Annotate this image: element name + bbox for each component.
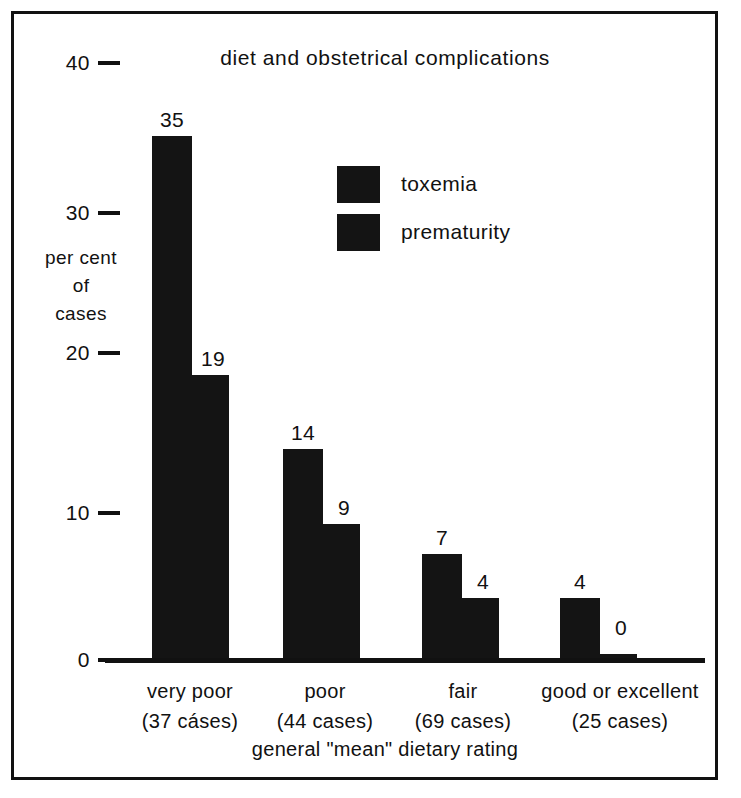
bar-value-toxemia-good-or-excellent: 4 [560, 570, 600, 594]
x-axis-category-count-fair: (69 cases) [388, 706, 538, 736]
bar-prematurity-fair [462, 598, 499, 658]
bar-prematurity-poor [323, 524, 360, 658]
bar-value-toxemia-poor: 14 [283, 421, 323, 445]
y-axis-tick-label-0: 0 [78, 648, 90, 672]
x-axis-category-label-very-poor: very poor [115, 676, 265, 706]
x-axis-category-very-poor: very poor (37 cáses) [115, 676, 265, 736]
x-axis-category-count-poor: (44 cases) [250, 706, 400, 736]
bar-value-toxemia-fair: 7 [422, 526, 462, 550]
bar-value-toxemia-very-poor: 35 [152, 108, 192, 132]
bar-toxemia-very-poor [152, 136, 192, 658]
bar-value-prematurity-fair: 4 [463, 570, 503, 594]
x-axis-baseline [105, 658, 705, 663]
y-axis-tick-label-10: 10 [66, 501, 90, 525]
plot-area: 35 19 14 9 7 4 4 0 [105, 60, 705, 666]
x-axis-category-count-very-poor: (37 cáses) [115, 706, 265, 736]
chart-page: diet and obstetrical complications 40 30… [0, 0, 741, 798]
y-axis-tick-label-40: 40 [66, 51, 90, 75]
bar-value-prematurity-very-poor: 19 [193, 347, 233, 371]
bar-toxemia-poor [283, 449, 323, 658]
x-axis-category-fair: fair (69 cases) [388, 676, 538, 736]
x-axis-category-label-good-or-excellent: good or excellent [525, 676, 715, 706]
x-axis-title: general "mean" dietary rating [150, 738, 620, 761]
bar-prematurity-very-poor [192, 375, 229, 658]
x-axis-category-count-good-or-excellent: (25 cases) [525, 706, 715, 736]
bar-prematurity-good-or-excellent [600, 654, 637, 658]
x-axis-category-poor: poor (44 cases) [250, 676, 400, 736]
x-axis-category-label-fair: fair [388, 676, 538, 706]
y-axis-tick-label-30: 30 [66, 201, 90, 225]
bar-value-prematurity-good-or-excellent: 0 [601, 616, 641, 640]
y-axis-tick-label-20: 20 [66, 341, 90, 365]
x-axis-category-label-poor: poor [250, 676, 400, 706]
bar-toxemia-fair [422, 554, 462, 658]
bar-toxemia-good-or-excellent [560, 598, 600, 658]
bar-value-prematurity-poor: 9 [324, 496, 364, 520]
x-axis-category-good-or-excellent: good or excellent (25 cases) [525, 676, 715, 736]
